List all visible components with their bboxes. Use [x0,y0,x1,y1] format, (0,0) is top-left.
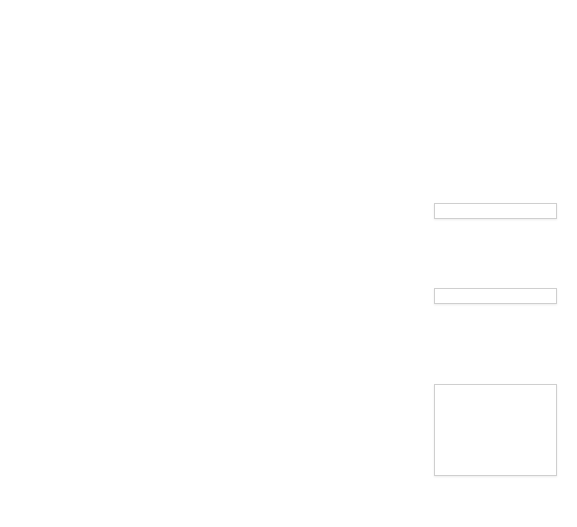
note-edging [434,384,557,476]
note-medium-motifs [434,203,557,219]
note-small-motifs [434,288,557,304]
